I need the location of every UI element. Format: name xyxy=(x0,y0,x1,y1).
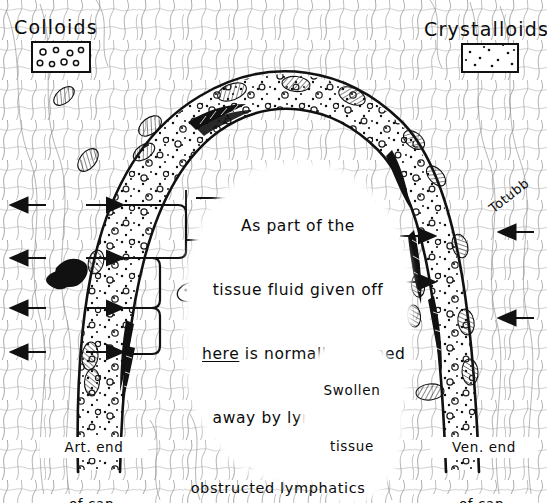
illustration-canvas: Colloids Crystalloids As part of the tis… xyxy=(0,0,547,503)
caption-line-2: tissue fluid given off xyxy=(202,280,394,301)
bottom-caption: obstructed lymphatics cause excess fluid… xyxy=(160,437,396,503)
colloid-swatch-box xyxy=(32,42,90,72)
legend-title-crystalloids: Crystalloids xyxy=(424,18,547,40)
venous-end-label: Ven. end of cap. xyxy=(430,401,538,503)
crystalloid-swatch-box xyxy=(462,44,518,72)
venous-end-line-1: Ven. end xyxy=(430,437,538,457)
venous-end-line-2: of cap. xyxy=(430,494,538,503)
here-emphasis: here xyxy=(202,345,239,363)
swollen-line-1: Swollen xyxy=(316,381,388,400)
caption-line-1: As part of the xyxy=(202,216,394,237)
arterial-end-line-1: Art. end xyxy=(40,437,148,457)
arterial-end-line-2: of cap. xyxy=(40,494,148,503)
arterial-end-label: Art. end of cap. xyxy=(40,401,148,503)
bottom-caption-line-1: obstructed lymphatics xyxy=(160,478,396,499)
legend-title-colloids: Colloids xyxy=(14,16,98,38)
